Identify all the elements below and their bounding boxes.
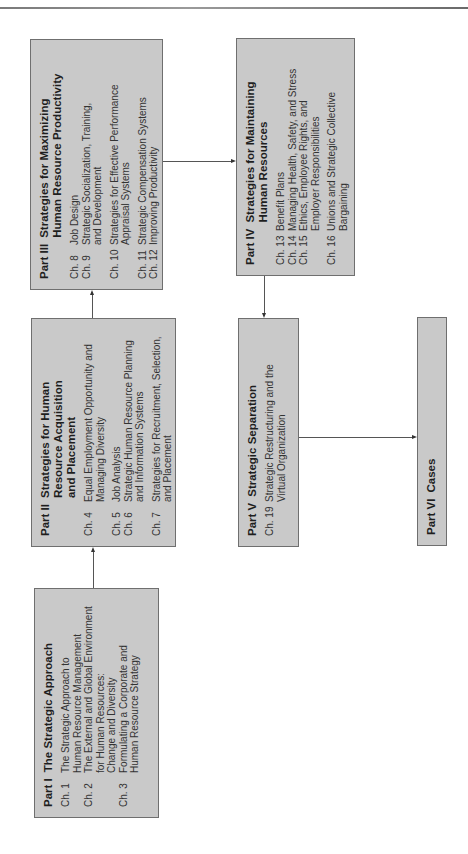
chapter-item: Ch. 5Job Analysis: [111, 325, 123, 536]
part-2-box: Part II Strategies for Human Resource Ac…: [31, 318, 176, 547]
part-6-box: Part VI Cases: [417, 317, 447, 546]
chapter-number: Ch. 2: [83, 773, 118, 807]
chapter-item: Ch. 3Formulating a Corporate and Human R…: [118, 595, 141, 807]
connector-part2-to-part3: [92, 295, 93, 318]
chapter-title: Benefit Plans: [275, 172, 287, 231]
chapter-item: Ch. 19Strategic Restructuring and the Vi…: [264, 325, 287, 536]
chapter-item: Ch. 15Ethics, Employee Rights, and Emplo…: [298, 45, 321, 265]
chapter-item: Ch. 6Strategic Human Resource Planning a…: [123, 325, 146, 536]
part-number: Part II: [39, 498, 78, 536]
chapter-number: Ch. 12: [148, 245, 160, 279]
chapter-number: Ch. 19: [264, 502, 287, 536]
chapter-number: Ch. 4: [83, 502, 106, 536]
chapter-number: Ch. 9: [81, 245, 104, 279]
part-4-box: Part IV Strategies for Maintaining Human…: [236, 38, 355, 276]
part-number: Part I: [42, 772, 55, 807]
part-title: Cases: [425, 459, 438, 493]
chapter-title: Strategic Human Resource Planning and In…: [123, 340, 146, 502]
chapter-title: Strategic Compensation Systems: [137, 97, 149, 245]
connector-part4-to-part5: [264, 276, 265, 313]
chapter-title: Improving Productivity: [148, 147, 160, 245]
chapter-number: Ch. 10: [109, 245, 132, 279]
chapter-item: Ch. 10Strategies for Effective Performan…: [109, 46, 132, 279]
chapter-item: Ch. 7Strategies for Recruitment, Selecti…: [151, 325, 174, 536]
part-5-box: Part V Strategic Separation Ch. 19Strate…: [238, 318, 299, 547]
part-1-heading: Part I The Strategic Approach: [42, 595, 55, 807]
arrow-head-icon: [90, 290, 94, 295]
chapter-item: Ch. 2The External and Global Environment…: [83, 595, 118, 807]
part-number: Part IV: [244, 223, 270, 265]
chapter-item: Ch. 4Equal Employment Opportunity and Ma…: [83, 325, 106, 536]
chapter-number: Ch. 11: [137, 245, 149, 279]
chapter-item: Ch. 12Improving Productivity: [148, 46, 160, 279]
part-1-box: Part I The Strategic Approach Ch. 1The S…: [34, 588, 159, 818]
chapter-number: Ch. 16: [326, 231, 349, 265]
part-3-heading: Part III Strategies for Maximizing Human…: [38, 46, 64, 279]
chapter-title: Strategic Restructuring and the Virtual …: [264, 364, 287, 502]
chapter-number: Ch. 1: [60, 773, 83, 807]
connector-part3-to-part4: [163, 161, 231, 162]
part-6-heading: Part VI Cases: [425, 324, 438, 535]
part-title: Strategies for Human Resource Acquisitio…: [39, 380, 78, 498]
chapter-number: Ch. 8: [69, 245, 81, 279]
chapter-title: Managing Health, Safety, and Stress: [287, 69, 299, 231]
part-title: Strategies for Maintaining Human Resourc…: [244, 81, 270, 222]
part-number: Part VI: [425, 493, 438, 535]
connector-part5-to-part6: [299, 437, 412, 438]
chapter-number: Ch. 3: [118, 773, 141, 807]
top-rule: [0, 7, 468, 9]
chapter-number: Ch. 6: [123, 502, 146, 536]
connector-part1-to-part2: [93, 552, 94, 588]
chapter-item: Ch. 1The Strategic Approach to Human Res…: [60, 595, 83, 807]
chapter-title: Strategic Socialization, Training, and D…: [81, 103, 104, 245]
chapter-item: Ch. 13Benefit Plans: [275, 45, 287, 265]
chapter-title: Unions and Strategic Collective Bargaini…: [326, 92, 349, 231]
chapter-title: Formulating a Corporate and Human Resour…: [118, 645, 141, 773]
chapter-item: Ch. 16Unions and Strategic Collective Ba…: [326, 45, 349, 265]
chapter-number: Ch. 13: [275, 231, 287, 265]
chapter-title: The External and Global Environment for …: [83, 606, 118, 773]
chapter-title: Job Design: [69, 195, 81, 245]
chapter-title: The Strategic Approach to Human Resource…: [60, 634, 83, 773]
arrow-head-icon: [262, 313, 266, 318]
chapter-title: Strategies for Recruitment, Selection, a…: [151, 336, 174, 502]
chapter-number: Ch. 15: [298, 231, 321, 265]
part-title: Strategies for Maximizing Human Resource…: [38, 74, 64, 238]
chapter-title: Ethics, Employee Rights, and Employer Re…: [298, 100, 321, 231]
chapter-item: Ch. 9Strategic Socialization, Training, …: [81, 46, 104, 279]
chapter-item: Ch. 11Strategic Compensation Systems: [137, 46, 149, 279]
chapter-number: Ch. 5: [111, 502, 123, 536]
chapter-title: Equal Employment Opportunity and Managin…: [83, 344, 106, 502]
chapter-title: Strategies for Effective Performance App…: [109, 85, 132, 245]
chapter-title: Job Analysis: [111, 446, 123, 502]
part-title: Strategic Separation: [246, 385, 259, 497]
chapter-number: Ch. 7: [151, 502, 174, 536]
part-3-box: Part III Strategies for Maximizing Human…: [30, 39, 163, 290]
part-number: Part III: [38, 238, 64, 279]
part-4-heading: Part IV Strategies for Maintaining Human…: [244, 45, 270, 265]
chapter-item: Ch. 14Managing Health, Safety, and Stres…: [287, 45, 299, 265]
part-2-heading: Part II Strategies for Human Resource Ac…: [39, 325, 78, 536]
arrow-head-icon: [91, 547, 95, 552]
chapter-number: Ch. 14: [287, 231, 299, 265]
arrow-head-icon: [412, 435, 417, 439]
part-5-heading: Part V Strategic Separation: [246, 325, 259, 536]
arrow-head-icon: [231, 159, 236, 163]
chapter-item: Ch. 8Job Design: [69, 46, 81, 279]
part-number: Part V: [246, 497, 259, 536]
part-title: The Strategic Approach: [42, 643, 55, 772]
